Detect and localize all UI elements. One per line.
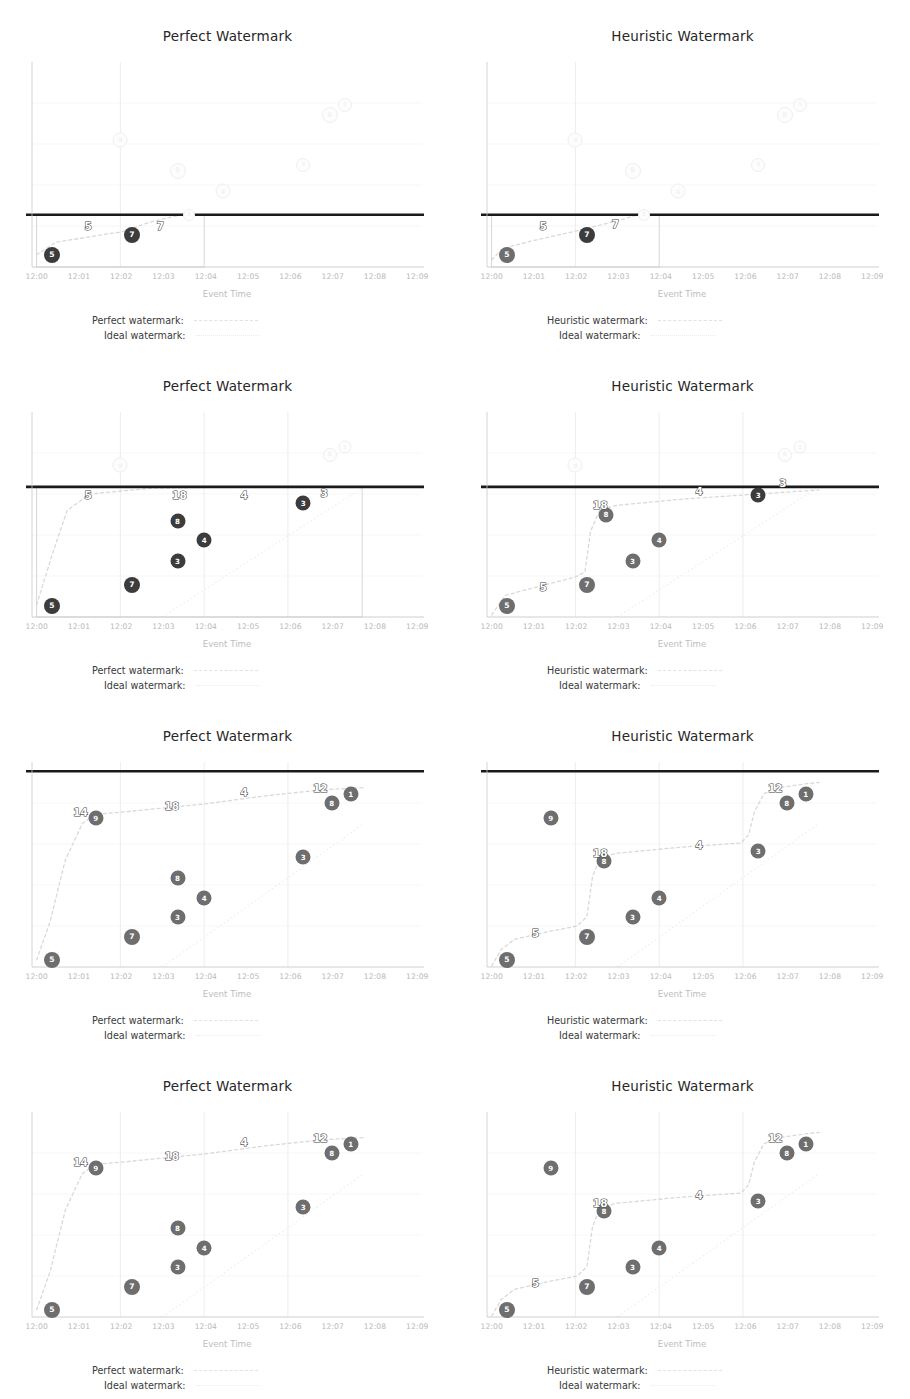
legend-line-swatch	[194, 1020, 258, 1022]
x-tick-label: 12:06	[734, 1322, 756, 1331]
x-tick-label: 12:01	[68, 272, 90, 281]
watermark-count-label: 4	[240, 1136, 247, 1147]
watermark-count-label: 4	[695, 486, 702, 497]
panel-title: Perfect Watermark	[0, 28, 455, 44]
x-tick-label: 12:07	[322, 972, 344, 981]
x-tick-label: 12:03	[152, 972, 174, 981]
legend-line-swatch	[658, 320, 722, 322]
panel-title: Heuristic Watermark	[455, 728, 910, 744]
x-axis-label: Event Time	[32, 1339, 422, 1349]
data-point-marker: 8	[625, 163, 641, 179]
x-axis-ticks: 12:0012:0112:0212:0312:0412:0512:0612:07…	[487, 622, 877, 636]
x-tick-label: 12:01	[523, 272, 545, 281]
x-tick-label: 12:07	[322, 622, 344, 631]
x-tick-label: 12:06	[734, 972, 756, 981]
data-point-marker: 8	[777, 107, 793, 123]
data-point-marker: 8	[170, 1220, 185, 1235]
legend-label: Perfect watermark:	[92, 1365, 184, 1376]
data-point-marker: 8	[324, 1146, 339, 1161]
x-tick-label: 12:04	[650, 622, 672, 631]
panel-legend: Perfect watermark:Ideal watermark:	[0, 663, 455, 693]
x-axis-label: Event Time	[487, 1339, 877, 1349]
data-point-marker: 1	[338, 98, 352, 112]
legend-entry: Heuristic watermark:	[455, 1363, 910, 1378]
x-tick-label: 12:01	[68, 622, 90, 631]
ideal-watermark-ramp	[162, 1174, 364, 1318]
chart-panel-3: Heuristic Watermark5734838195184312:0012…	[455, 350, 910, 710]
x-tick-label: 12:08	[364, 622, 386, 631]
legend-line-swatch	[196, 1385, 260, 1387]
x-tick-label: 12:08	[364, 972, 386, 981]
ideal-watermark-ramp	[162, 487, 364, 617]
data-point-marker: 9	[568, 458, 583, 473]
x-tick-label: 12:03	[152, 1322, 174, 1331]
x-tick-label: 12:00	[480, 1322, 502, 1331]
x-tick-label: 12:02	[110, 1322, 132, 1331]
data-point-marker: 3	[170, 553, 185, 568]
legend-entry: Heuristic watermark:	[455, 663, 910, 678]
watermark-count-label: 5	[84, 221, 91, 232]
panel-title: Heuristic Watermark	[455, 28, 910, 44]
watermark-count-label: 18	[593, 500, 608, 511]
data-point-marker: 4	[216, 184, 231, 199]
x-tick-label: 12:05	[692, 622, 714, 631]
legend-line-swatch	[194, 670, 258, 672]
legend-label: Perfect watermark:	[92, 665, 184, 676]
x-tick-label: 12:05	[237, 1322, 259, 1331]
data-point-marker: 5	[44, 247, 60, 263]
watermark-count-label: 12	[313, 782, 328, 793]
plot-area: 573483981518412	[487, 1112, 877, 1317]
x-tick-label: 12:04	[195, 1322, 217, 1331]
x-tick-label: 12:00	[25, 272, 47, 281]
data-point-marker: 3	[625, 1259, 640, 1274]
watermark-count-label: 4	[240, 490, 247, 501]
x-tick-label: 12:09	[406, 972, 428, 981]
x-tick-label: 12:03	[607, 622, 629, 631]
data-point-marker: 8	[323, 448, 337, 462]
x-tick-label: 12:09	[406, 272, 428, 281]
legend-label: Ideal watermark:	[104, 1380, 186, 1391]
data-point-marker: 1	[338, 440, 351, 453]
chart-panel-7: Heuristic Watermark57348398151841212:001…	[455, 1050, 910, 1399]
legend-label: Perfect watermark:	[92, 1015, 184, 1026]
data-point-marker: 9	[88, 1161, 103, 1176]
data-point-marker: 3	[296, 158, 310, 172]
x-tick-label: 12:00	[25, 972, 47, 981]
x-tick-label: 12:09	[861, 622, 883, 631]
data-point-marker: 9	[88, 811, 103, 826]
watermark-count-label: 18	[164, 801, 179, 812]
x-axis-ticks: 12:0012:0112:0212:0312:0412:0512:0612:07…	[487, 972, 877, 986]
panel-legend: Heuristic watermark:Ideal watermark:	[455, 1363, 910, 1393]
chart-panel-6: Perfect Watermark573483981141841212:0012…	[0, 1050, 455, 1399]
x-tick-label: 12:03	[607, 1322, 629, 1331]
panel-title: Perfect Watermark	[0, 1078, 455, 1094]
watermark-count-label: 18	[172, 490, 187, 501]
legend-label: Ideal watermark:	[104, 680, 186, 691]
active-window-box	[37, 487, 362, 617]
legend-entry: Ideal watermark:	[0, 1028, 455, 1043]
data-point-marker: 5	[44, 598, 60, 614]
x-tick-label: 12:02	[110, 972, 132, 981]
panel-title: Heuristic Watermark	[455, 1078, 910, 1094]
legend-entry: Ideal watermark:	[455, 1028, 910, 1043]
chart-panel-1: Heuristic Watermark5734839815712:0012:01…	[455, 0, 910, 360]
x-tick-label: 12:06	[279, 272, 301, 281]
data-point-marker: 1	[343, 786, 358, 801]
legend-entry: Perfect watermark:	[0, 663, 455, 678]
x-axis-label: Event Time	[32, 989, 422, 999]
legend-line-swatch	[651, 1035, 715, 1037]
watermark-count-label: 14	[73, 807, 88, 818]
legend-line-swatch	[658, 670, 722, 672]
x-axis-label: Event Time	[487, 639, 877, 649]
watermark-count-label: 18	[593, 848, 608, 859]
data-point-marker: 4	[197, 1241, 212, 1256]
panel-title: Perfect Watermark	[0, 378, 455, 394]
plot-area: 57348398157	[487, 62, 877, 267]
data-point-marker: 3	[751, 488, 766, 503]
legend-entry: Ideal watermark:	[455, 328, 910, 343]
x-tick-label: 12:06	[279, 972, 301, 981]
watermark-line	[37, 215, 189, 255]
x-axis-ticks: 12:0012:0112:0212:0312:0412:0512:0612:07…	[487, 1322, 877, 1336]
panel-legend: Heuristic watermark:Ideal watermark:	[455, 1013, 910, 1043]
data-point-marker: 4	[652, 1241, 667, 1256]
